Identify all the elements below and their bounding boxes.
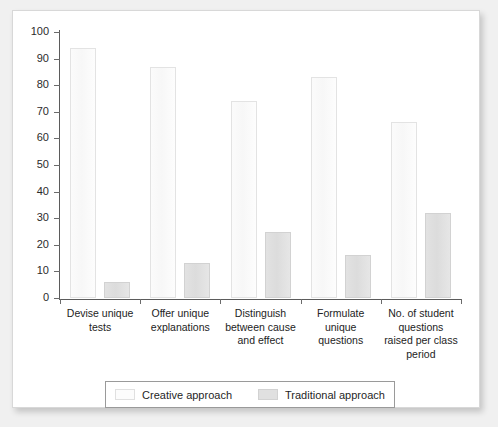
x-axis-category-label: Offer uniqueexplanations — [140, 307, 220, 334]
bar-traditional — [184, 263, 210, 298]
y-axis-tick-label: 70 — [37, 105, 49, 118]
x-axis-line — [59, 299, 462, 300]
y-axis-tick-label: 0 — [43, 291, 49, 304]
bar-creative — [70, 48, 96, 298]
x-axis-category-label-line: No. of student — [381, 307, 461, 321]
legend-swatch-icon — [115, 389, 135, 400]
x-axis-tick-mark — [301, 299, 302, 304]
chart-card: 1009080706050403020100 Devise uniquetest… — [12, 10, 480, 408]
x-axis-category-label-line: Distinguish — [220, 307, 300, 321]
x-axis-category-label-line: tests — [60, 321, 140, 335]
y-axis-tick-label: 100 — [31, 25, 49, 38]
bar-traditional — [104, 282, 130, 298]
y-axis-tick-label: 80 — [37, 78, 49, 91]
plot-area — [60, 32, 461, 298]
x-axis-tick-mark — [220, 299, 221, 304]
bar-traditional — [345, 255, 371, 298]
x-axis-category-label-line: period — [381, 348, 461, 362]
y-axis-tick-label: 10 — [37, 264, 49, 277]
x-axis-category-label-line: between cause — [220, 321, 300, 335]
bar-creative — [150, 67, 176, 298]
x-axis-tick-mark — [381, 299, 382, 304]
y-axis-tick-label: 20 — [37, 238, 49, 251]
page-background: 1009080706050403020100 Devise uniquetest… — [0, 0, 498, 427]
bar-creative — [311, 77, 337, 298]
x-axis-category-label-line: unique — [301, 321, 381, 335]
bar-traditional — [425, 213, 451, 298]
y-axis-tick-label: 40 — [37, 185, 49, 198]
bar-creative — [231, 101, 257, 298]
x-axis-category-labels: Devise uniquetestsOffer uniqueexplanatio… — [60, 307, 461, 369]
x-axis-category-label-line: questions — [301, 334, 381, 348]
x-axis-category-label-line: raised per class — [381, 334, 461, 348]
bar-creative — [391, 122, 417, 298]
legend-label: Traditional approach — [285, 389, 385, 401]
x-axis-category-label-line: explanations — [140, 321, 220, 335]
y-axis-tick-label: 90 — [37, 52, 49, 65]
x-axis-category-label-line: Devise unique — [60, 307, 140, 321]
x-axis-tick-mark — [140, 299, 141, 304]
legend-label: Creative approach — [142, 389, 232, 401]
legend-item-creative[interactable]: Creative approach — [115, 389, 232, 401]
bar-chart: 1009080706050403020100 Devise uniquetest… — [13, 11, 479, 407]
x-axis-tick-mark — [60, 299, 61, 304]
x-axis-category-label-line: questions — [381, 321, 461, 335]
bar-traditional — [265, 232, 291, 299]
y-axis-tick-label: 30 — [37, 211, 49, 224]
x-axis-tick-mark — [461, 299, 462, 304]
x-axis-category-label: Devise uniquetests — [60, 307, 140, 334]
x-axis-category-label: Distinguishbetween causeand effect — [220, 307, 300, 348]
x-axis-category-label: Formulateuniquequestions — [301, 307, 381, 348]
y-axis-tick-label: 50 — [37, 158, 49, 171]
x-axis-category-label-line: Formulate — [301, 307, 381, 321]
x-axis-category-label-line: and effect — [220, 334, 300, 348]
chart-legend: Creative approachTraditional approach — [105, 381, 395, 408]
legend-item-traditional[interactable]: Traditional approach — [258, 389, 385, 401]
y-axis-tick-label: 60 — [37, 131, 49, 144]
legend-swatch-icon — [258, 389, 278, 400]
x-axis-category-label: No. of studentquestionsraised per classp… — [381, 307, 461, 361]
x-axis-category-label-line: Offer unique — [140, 307, 220, 321]
